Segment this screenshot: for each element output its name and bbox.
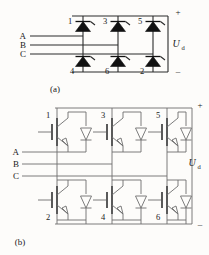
panel-b-diagram: 1 3 5 2 4 6 A B C + – U d (b) <box>0 100 209 255</box>
thyristor-5 <box>146 22 166 32</box>
panel-a-diagram: 1 3 5 4 6 2 A B C + – U d (a) <box>0 0 209 100</box>
output-voltage-subscript-a: d <box>181 44 185 51</box>
phase-label-b-B: B <box>13 159 19 169</box>
terminal-positive-a: + <box>175 7 180 17</box>
device-label-a-lower-6: 6 <box>105 66 109 76</box>
thyristor-2 <box>146 57 166 67</box>
output-voltage-label-b: U <box>188 157 196 168</box>
leg-b-3 <box>148 108 192 224</box>
thyristor-4 <box>76 57 96 67</box>
phase-lines-a <box>30 36 153 54</box>
phase-label-b-C: C <box>13 171 19 181</box>
terminal-negative-a: – <box>175 66 181 76</box>
terminal-positive-b: + <box>197 100 202 110</box>
device-label-a-lower-4: 4 <box>70 66 75 76</box>
device-label-b-lower-2: 2 <box>46 212 50 222</box>
thyristor-3 <box>111 22 131 32</box>
phase-label-a-C: C <box>20 49 26 59</box>
device-label-b-lower-6: 6 <box>156 212 160 222</box>
thyristor-6 <box>111 57 131 67</box>
panel-a-caption: (a) <box>50 84 60 94</box>
device-label-a-upper-1: 1 <box>68 16 72 26</box>
figure-root: 1 3 5 4 6 2 A B C + – U d (a) <box>0 0 209 255</box>
device-label-b-lower-4: 4 <box>101 212 106 222</box>
device-label-a-upper-5: 5 <box>138 16 142 26</box>
leg-b-1 <box>38 108 92 224</box>
phase-label-b-A: A <box>13 147 20 157</box>
device-label-a-upper-3: 3 <box>103 16 107 26</box>
output-voltage-subscript-b: d <box>197 163 201 170</box>
device-label-b-upper-5: 5 <box>156 110 160 120</box>
phase-lines-b <box>22 152 167 176</box>
thyristor-1 <box>76 22 96 32</box>
terminal-negative-b: – <box>197 219 203 229</box>
device-label-b-upper-3: 3 <box>101 110 105 120</box>
device-label-a-lower-2: 2 <box>140 66 144 76</box>
device-label-b-upper-1: 1 <box>46 110 50 120</box>
output-voltage-label-a: U <box>172 38 180 49</box>
panel-b-caption: (b) <box>15 237 26 247</box>
leg-b-2 <box>93 108 147 224</box>
